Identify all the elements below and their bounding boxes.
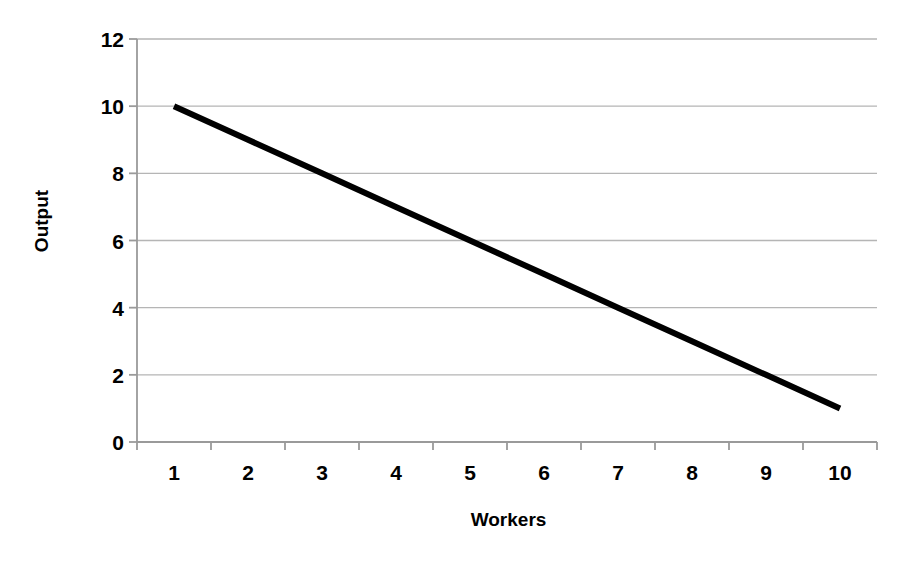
x-axis-tick-marks	[137, 442, 877, 450]
x-tick-label: 5	[464, 462, 476, 483]
x-tick-label: 8	[686, 462, 698, 483]
y-axis-tick-marks	[129, 39, 137, 442]
x-tick-label: 4	[390, 462, 402, 483]
x-tick-label: 10	[828, 462, 851, 483]
x-tick-label: 1	[168, 462, 180, 483]
series-line-output	[174, 106, 840, 408]
x-axis-title: Workers	[137, 509, 880, 531]
x-tick-label: 2	[242, 462, 254, 483]
x-tick-label: 9	[760, 462, 772, 483]
x-tick-label: 3	[316, 462, 328, 483]
x-tick-label: 6	[538, 462, 550, 483]
x-axis-tick-labels: 12345678910	[137, 462, 880, 492]
x-tick-label: 7	[612, 462, 624, 483]
chart-container: Output 024681012 12345678910 Workers	[0, 0, 907, 573]
data-series-line	[174, 106, 840, 408]
gridlines	[137, 39, 877, 442]
